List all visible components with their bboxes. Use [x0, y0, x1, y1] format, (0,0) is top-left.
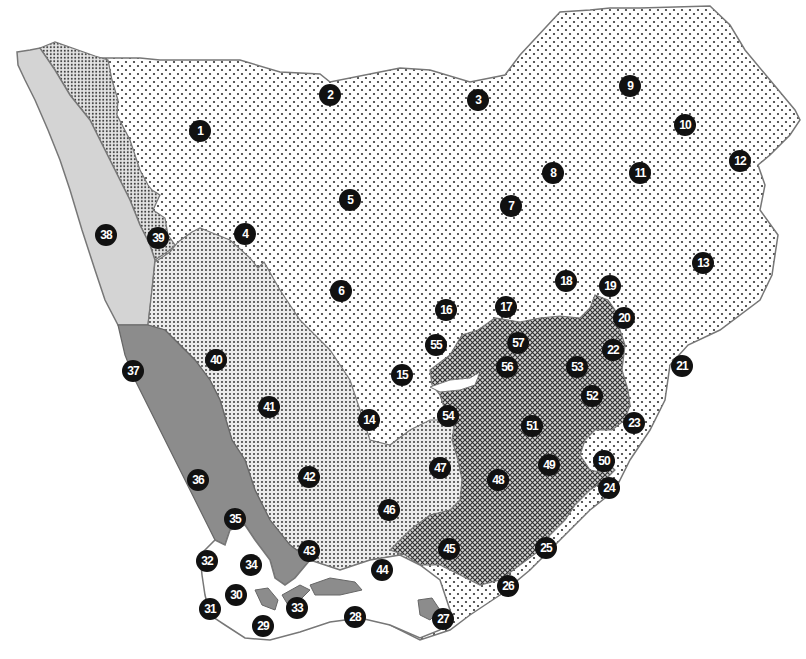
- site-marker-label: 8: [550, 162, 556, 184]
- site-marker-47: 47: [429, 457, 451, 479]
- site-marker-5: 5: [339, 189, 361, 211]
- site-marker-label: 16: [440, 299, 451, 321]
- site-marker-41: 41: [258, 396, 280, 418]
- site-marker-label: 26: [502, 575, 513, 597]
- site-marker-label: 32: [201, 550, 212, 572]
- site-marker-label: 51: [526, 415, 537, 437]
- site-marker-27: 27: [432, 608, 454, 630]
- site-marker-50: 50: [593, 450, 615, 472]
- site-marker-label: 43: [303, 540, 314, 562]
- site-marker-label: 3: [475, 89, 481, 111]
- site-marker-label: 56: [501, 356, 512, 378]
- site-marker-22: 22: [602, 339, 624, 361]
- site-marker-label: 33: [291, 597, 302, 619]
- site-marker-46: 46: [378, 499, 400, 521]
- site-marker-label: 22: [607, 339, 618, 361]
- site-marker-28: 28: [344, 606, 366, 628]
- site-marker-31: 31: [199, 598, 221, 620]
- site-marker-label: 34: [245, 554, 256, 576]
- site-marker-label: 9: [627, 75, 633, 97]
- site-marker-label: 13: [697, 252, 708, 274]
- site-marker-49: 49: [538, 454, 560, 476]
- site-marker-label: 12: [734, 150, 745, 172]
- site-marker-26: 26: [497, 575, 519, 597]
- site-marker-51: 51: [521, 415, 543, 437]
- site-marker-label: 24: [603, 477, 614, 499]
- map-canvas: [0, 0, 806, 659]
- site-marker-label: 49: [543, 454, 554, 476]
- site-marker-8: 8: [542, 162, 564, 184]
- site-marker-55: 55: [425, 334, 447, 356]
- site-marker-19: 19: [599, 275, 621, 297]
- site-marker-1: 1: [189, 120, 211, 142]
- site-marker-label: 4: [242, 223, 248, 245]
- site-marker-24: 24: [598, 477, 620, 499]
- site-marker-label: 11: [635, 162, 646, 184]
- site-marker-label: 19: [604, 275, 615, 297]
- site-marker-36: 36: [187, 469, 209, 491]
- site-marker-35: 35: [224, 508, 246, 530]
- site-marker-label: 38: [100, 224, 111, 246]
- site-marker-label: 18: [560, 270, 571, 292]
- site-marker-48: 48: [487, 469, 509, 491]
- site-marker-4: 4: [234, 223, 256, 245]
- site-marker-label: 10: [679, 114, 690, 136]
- site-marker-15: 15: [391, 364, 413, 386]
- site-marker-label: 46: [383, 499, 394, 521]
- site-marker-54: 54: [437, 405, 459, 427]
- site-marker-label: 21: [676, 355, 687, 377]
- site-marker-label: 27: [437, 608, 448, 630]
- site-marker-label: 44: [376, 559, 387, 581]
- site-marker-56: 56: [496, 356, 518, 378]
- site-marker-13: 13: [692, 252, 714, 274]
- site-marker-label: 52: [586, 385, 597, 407]
- site-marker-21: 21: [671, 355, 693, 377]
- site-marker-label: 40: [210, 349, 221, 371]
- site-marker-label: 20: [618, 307, 629, 329]
- site-marker-label: 42: [303, 466, 314, 488]
- site-marker-52: 52: [581, 385, 603, 407]
- site-marker-label: 36: [192, 469, 203, 491]
- site-marker-label: 57: [512, 332, 523, 354]
- site-marker-label: 53: [571, 356, 582, 378]
- site-marker-39: 39: [147, 227, 169, 249]
- site-marker-label: 28: [349, 606, 360, 628]
- site-marker-37: 37: [122, 360, 144, 382]
- site-marker-38: 38: [95, 224, 117, 246]
- site-marker-label: 50: [598, 450, 609, 472]
- site-marker-45: 45: [438, 538, 460, 560]
- site-marker-label: 37: [127, 360, 138, 382]
- site-marker-25: 25: [535, 537, 557, 559]
- site-marker-label: 29: [257, 615, 268, 637]
- site-marker-40: 40: [205, 349, 227, 371]
- site-marker-53: 53: [566, 356, 588, 378]
- site-marker-34: 34: [240, 554, 262, 576]
- site-marker-42: 42: [298, 466, 320, 488]
- site-marker-44: 44: [371, 559, 393, 581]
- site-marker-43: 43: [298, 540, 320, 562]
- site-marker-label: 54: [442, 405, 453, 427]
- site-marker-label: 5: [347, 189, 353, 211]
- site-marker-20: 20: [613, 307, 635, 329]
- site-marker-label: 6: [338, 280, 344, 302]
- site-marker-label: 45: [443, 538, 454, 560]
- site-marker-label: 7: [508, 195, 514, 217]
- site-marker-label: 30: [230, 584, 241, 606]
- site-marker-3: 3: [467, 89, 489, 111]
- site-marker-2: 2: [319, 84, 341, 106]
- site-marker-33: 33: [286, 597, 308, 619]
- site-marker-label: 25: [540, 537, 551, 559]
- site-marker-9: 9: [619, 75, 641, 97]
- site-marker-32: 32: [196, 550, 218, 572]
- site-marker-label: 2: [327, 84, 333, 106]
- site-marker-label: 14: [363, 409, 374, 431]
- site-marker-18: 18: [555, 270, 577, 292]
- site-marker-label: 55: [430, 334, 441, 356]
- site-marker-label: 48: [492, 469, 503, 491]
- site-marker-10: 10: [674, 114, 696, 136]
- site-marker-label: 31: [204, 598, 215, 620]
- site-marker-12: 12: [729, 150, 751, 172]
- site-marker-label: 35: [229, 508, 240, 530]
- site-marker-11: 11: [629, 162, 651, 184]
- site-marker-7: 7: [500, 195, 522, 217]
